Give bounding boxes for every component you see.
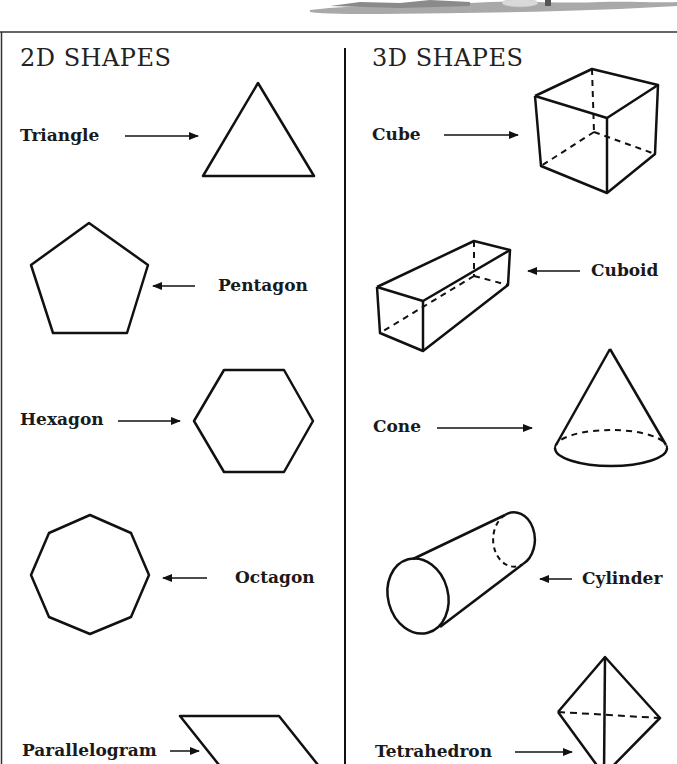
triangle-shape	[203, 83, 314, 176]
pentagon-shape	[31, 223, 148, 333]
cylinder-shape	[379, 512, 535, 640]
label-cylinder: Cylinder	[582, 568, 662, 588]
label-hexagon: Hexagon	[20, 409, 104, 429]
label-pentagon: Pentagon	[218, 275, 308, 295]
label-cone: Cone	[373, 416, 421, 436]
ground-illustration	[310, 0, 677, 14]
label-octagon: Octagon	[235, 567, 315, 587]
hexagon-shape	[194, 370, 313, 472]
tetrahedron-shape	[558, 657, 660, 764]
label-triangle: Triangle	[20, 125, 99, 145]
label-cuboid: Cuboid	[591, 260, 658, 280]
heading-3d-shapes: 3D SHAPES	[372, 44, 523, 72]
label-cube: Cube	[372, 124, 421, 144]
label-tetrahedron: Tetrahedron	[375, 741, 492, 761]
cube-shape	[535, 69, 658, 193]
heading-2d-shapes: 2D SHAPES	[20, 44, 171, 72]
parallelogram-shape	[180, 716, 330, 764]
shapes-diagram	[0, 0, 677, 764]
cone-shape	[555, 349, 667, 466]
cuboid-shape	[377, 241, 510, 351]
label-parallelogram: Parallelogram	[22, 740, 157, 760]
octagon-shape	[31, 515, 149, 634]
